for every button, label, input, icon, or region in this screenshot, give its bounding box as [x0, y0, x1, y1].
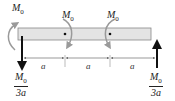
left-moment-label: M0	[12, 3, 24, 16]
left-force-label: M0 3a	[14, 72, 28, 98]
beam	[18, 28, 151, 40]
point-1-dot	[64, 33, 67, 36]
right-force-label: M0 3a	[149, 72, 163, 98]
left-moment-arrow-icon	[8, 24, 16, 50]
dim-label-1: a	[41, 61, 46, 71]
dim-label-3: a	[130, 61, 135, 71]
point2-moment-label: M0	[107, 10, 119, 23]
point1-moment-label: M0	[62, 10, 74, 23]
dim-label-2: a	[86, 61, 91, 71]
point-2-dot	[109, 33, 112, 36]
